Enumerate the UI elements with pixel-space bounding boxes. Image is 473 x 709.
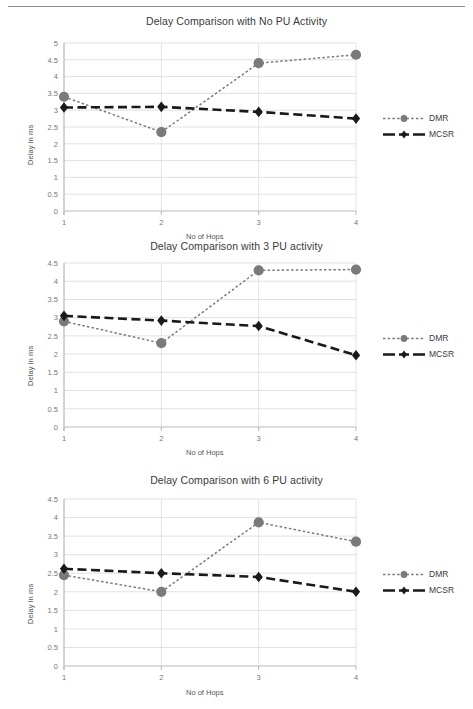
plot-area: 00.511.522.533.544.51234 Delay in ms No … — [0, 238, 473, 466]
y-axis-label: Delay in ms — [26, 125, 35, 165]
svg-text:3: 3 — [54, 313, 58, 322]
legend-swatch-dmr — [383, 333, 425, 344]
legend-swatch-dmr — [383, 569, 425, 580]
figure-page: Delay Comparison with No PU Activity 00.… — [0, 0, 473, 709]
svg-text:3: 3 — [54, 106, 58, 115]
legend: DMR MCSR — [383, 110, 454, 142]
svg-text:4.5: 4.5 — [48, 56, 58, 65]
top-divider — [8, 6, 465, 7]
svg-text:3: 3 — [257, 434, 261, 443]
y-axis-label: Delay in ms — [26, 584, 35, 624]
svg-text:1: 1 — [54, 173, 58, 182]
legend: DMR MCSR — [383, 566, 454, 598]
legend-label-mcsr: MCSR — [429, 129, 454, 140]
svg-text:0: 0 — [54, 662, 58, 671]
svg-text:1: 1 — [62, 218, 66, 227]
svg-text:0: 0 — [54, 423, 58, 432]
svg-text:2.5: 2.5 — [48, 569, 58, 578]
svg-text:1: 1 — [54, 625, 58, 634]
svg-text:2: 2 — [159, 218, 163, 227]
svg-text:4: 4 — [54, 277, 58, 286]
svg-text:2: 2 — [159, 434, 163, 443]
legend-swatch-dmr — [383, 113, 425, 124]
legend-label-dmr: DMR — [429, 333, 448, 344]
svg-text:1.5: 1.5 — [48, 156, 58, 165]
legend: DMR MCSR — [383, 330, 454, 362]
svg-text:4: 4 — [54, 513, 58, 522]
svg-text:2: 2 — [54, 588, 58, 597]
svg-text:2.5: 2.5 — [48, 332, 58, 341]
svg-text:3: 3 — [257, 673, 261, 682]
svg-text:4: 4 — [354, 673, 358, 682]
svg-text:1: 1 — [62, 673, 66, 682]
svg-text:4.5: 4.5 — [48, 259, 58, 268]
legend-item-mcsr[interactable]: MCSR — [383, 346, 454, 362]
plot-area: 00.511.522.533.544.551234 Delay in ms No… — [0, 10, 473, 238]
svg-text:1: 1 — [62, 434, 66, 443]
plot-area: 00.511.522.533.544.51234 Delay in ms No … — [0, 466, 473, 709]
legend-item-dmr[interactable]: DMR — [383, 330, 454, 346]
legend-swatch-mcsr — [383, 585, 425, 596]
svg-text:3: 3 — [257, 218, 261, 227]
legend-item-dmr[interactable]: DMR — [383, 566, 454, 582]
svg-text:1.5: 1.5 — [48, 606, 58, 615]
svg-text:5: 5 — [54, 39, 58, 48]
legend-item-mcsr[interactable]: MCSR — [383, 126, 454, 142]
legend-swatch-mcsr — [383, 129, 425, 140]
legend-label-dmr: DMR — [429, 569, 448, 580]
chart-panel-6-pu: Delay Comparison with 6 PU activity 00.5… — [0, 466, 473, 709]
svg-text:1.5: 1.5 — [48, 368, 58, 377]
y-axis-label: Delay in ms — [26, 346, 35, 386]
svg-text:2: 2 — [54, 140, 58, 149]
legend-label-mcsr: MCSR — [429, 349, 454, 360]
legend-item-dmr[interactable]: DMR — [383, 110, 454, 126]
svg-text:2: 2 — [159, 673, 163, 682]
chart-panel-3-pu: Delay Comparison with 3 PU activity 00.5… — [0, 238, 473, 466]
svg-text:1: 1 — [54, 386, 58, 395]
x-axis-label: No of Hops — [0, 448, 473, 457]
svg-text:0.5: 0.5 — [48, 643, 58, 652]
svg-text:3.5: 3.5 — [48, 532, 58, 541]
svg-text:4: 4 — [354, 218, 358, 227]
legend-item-mcsr[interactable]: MCSR — [383, 582, 454, 598]
svg-text:0.5: 0.5 — [48, 405, 58, 414]
svg-text:0: 0 — [54, 207, 58, 216]
legend-label-dmr: DMR — [429, 113, 448, 124]
x-axis-label: No of Hops — [0, 688, 473, 697]
chart-panel-no-pu: Delay Comparison with No PU Activity 00.… — [0, 10, 473, 238]
svg-text:3.5: 3.5 — [48, 295, 58, 304]
svg-text:3.5: 3.5 — [48, 89, 58, 98]
svg-text:0.5: 0.5 — [48, 190, 58, 199]
svg-text:3: 3 — [54, 550, 58, 559]
svg-text:2: 2 — [54, 350, 58, 359]
legend-swatch-mcsr — [383, 349, 425, 360]
svg-text:4: 4 — [354, 434, 358, 443]
svg-text:4.5: 4.5 — [48, 495, 58, 504]
svg-text:2.5: 2.5 — [48, 123, 58, 132]
legend-label-mcsr: MCSR — [429, 585, 454, 596]
svg-text:4: 4 — [54, 72, 58, 81]
